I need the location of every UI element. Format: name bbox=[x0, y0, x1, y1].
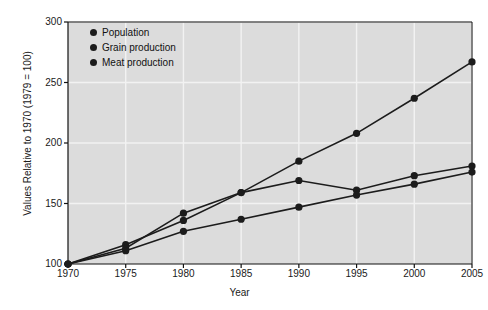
data-point bbox=[353, 191, 360, 198]
x-tick-label: 1990 bbox=[276, 268, 322, 279]
data-point bbox=[180, 210, 187, 217]
data-point bbox=[468, 58, 475, 65]
x-tick-label: 1980 bbox=[160, 268, 206, 279]
data-point bbox=[353, 130, 360, 137]
legend-marker-circle-icon bbox=[90, 59, 97, 66]
data-point bbox=[122, 247, 129, 254]
y-tick-label: 300 bbox=[28, 16, 62, 27]
legend-label: Meat production bbox=[102, 57, 174, 68]
legend-label: Grain production bbox=[102, 42, 176, 53]
data-point bbox=[411, 181, 418, 188]
x-tick-label: 1975 bbox=[103, 268, 149, 279]
x-tick-label: 2005 bbox=[449, 268, 488, 279]
x-tick-label: 1995 bbox=[334, 268, 380, 279]
legend-item: Grain production bbox=[90, 42, 176, 53]
y-tick-label: 150 bbox=[28, 198, 62, 209]
data-point bbox=[411, 172, 418, 179]
legend-item: Meat production bbox=[90, 57, 174, 68]
y-tick-label: 200 bbox=[28, 137, 62, 148]
data-point bbox=[238, 216, 245, 223]
data-point bbox=[411, 95, 418, 102]
x-tick-label: 1970 bbox=[45, 268, 91, 279]
y-tick-label: 250 bbox=[28, 77, 62, 88]
data-point bbox=[180, 228, 187, 235]
legend-label: Population bbox=[102, 27, 149, 38]
legend-item: Population bbox=[90, 27, 149, 38]
legend-marker-circle-icon bbox=[90, 29, 97, 36]
data-point bbox=[295, 158, 302, 165]
legend-marker-circle-icon bbox=[90, 44, 97, 51]
x-tick-label: 2000 bbox=[391, 268, 437, 279]
data-point bbox=[238, 189, 245, 196]
x-tick-label: 1985 bbox=[218, 268, 264, 279]
data-point bbox=[295, 204, 302, 211]
data-point bbox=[180, 217, 187, 224]
data-point bbox=[295, 177, 302, 184]
y-tick-label: 100 bbox=[28, 258, 62, 269]
data-point bbox=[468, 168, 475, 175]
x-axis-title: Year bbox=[0, 287, 479, 298]
data-point bbox=[64, 260, 71, 267]
